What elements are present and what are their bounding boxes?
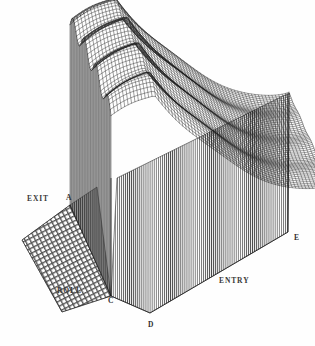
vertex-label-c: C xyxy=(108,297,113,305)
wireframe-surface-svg xyxy=(0,0,315,346)
vertex-label-d: D xyxy=(148,321,153,329)
label-entry: ENTRY xyxy=(219,277,250,285)
label-exit: EXIT xyxy=(27,195,49,203)
vertex-label-a: A xyxy=(66,194,71,202)
label-roll: ROLL xyxy=(57,287,82,295)
surface-plot-figure: EXIT ROLL ENTRY A C D E xyxy=(0,0,315,346)
vertex-label-e: E xyxy=(294,234,299,242)
